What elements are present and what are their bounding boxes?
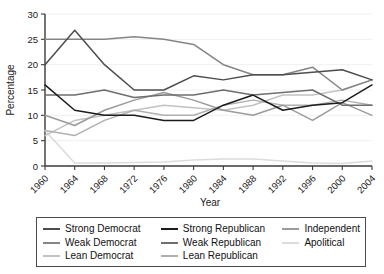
legend-item-independent[interactable]: Independent (282, 222, 360, 236)
legend-item-strong-republican[interactable]: Strong Republican (161, 222, 283, 236)
x-tick-label-1992: 1992 (266, 173, 289, 196)
x-tick-label-1988: 1988 (236, 173, 259, 196)
legend-label-strong-democrat: Strong Democrat (65, 223, 141, 235)
series-line-apolitical (45, 131, 372, 164)
x-axis: 1960196419681972197619801984198819921996… (28, 166, 378, 208)
legend-swatch-strong-republican (161, 228, 178, 230)
legend-swatch-independent (282, 228, 299, 230)
legend-swatch-strong-democrat (43, 228, 60, 230)
y-axis: 051015202530 Percentage (5, 9, 45, 172)
x-tick-label-1980: 1980 (176, 173, 199, 196)
y-axis-title: Percentage (5, 64, 16, 116)
legend-label-apolitical: Apolitical (304, 237, 344, 249)
x-tick-label-2000: 2000 (325, 173, 348, 196)
x-tick-label-1972: 1972 (117, 173, 140, 196)
legend-label-strong-republican: Strong Republican (183, 223, 265, 235)
legend-item-apolitical[interactable]: Apolitical (282, 236, 360, 250)
x-tick-label-1996: 1996 (295, 173, 318, 196)
y-tick-label-30: 30 (27, 9, 38, 20)
legend-item-strong-democrat[interactable]: Strong Democrat (43, 222, 161, 236)
y-tick-label-0: 0 (33, 161, 38, 172)
legend-label-weak-republican: Weak Republican (183, 237, 261, 249)
legend-swatch-lean-republican (161, 255, 178, 257)
x-tick-label-1984: 1984 (206, 173, 229, 196)
legend-swatch-weak-democrat (43, 242, 60, 244)
chart-legend: Strong Democrat Weak Democrat Lean Democ… (36, 217, 366, 267)
legend-item-weak-democrat[interactable]: Weak Democrat (43, 236, 161, 250)
legend-label-weak-democrat: Weak Democrat (65, 237, 137, 249)
legend-item-lean-democrat[interactable]: Lean Democrat (43, 249, 161, 263)
legend-swatch-lean-democrat (43, 255, 60, 257)
x-tick-label-1964: 1964 (57, 173, 80, 196)
legend-label-lean-republican: Lean Republican (183, 250, 258, 262)
legend-column-democrat: Strong Democrat Weak Democrat Lean Democ… (43, 222, 161, 263)
y-tick-label-5: 5 (33, 135, 38, 146)
x-tick-label-1960: 1960 (28, 173, 51, 196)
y-tick-label-25: 25 (27, 34, 38, 45)
y-tick-label-15: 15 (27, 85, 38, 96)
series-group (45, 30, 372, 163)
legend-item-lean-republican[interactable]: Lean Republican (161, 249, 283, 263)
series-line-lean-democrat (45, 80, 372, 136)
legend-swatch-apolitical (282, 242, 299, 244)
chart-root: 051015202530 Percentage 1960196419681972… (0, 0, 384, 274)
legend-label-lean-democrat: Lean Democrat (65, 250, 133, 262)
legend-label-independent: Independent (304, 223, 360, 235)
x-tick-label-1976: 1976 (147, 173, 170, 196)
legend-item-weak-republican[interactable]: Weak Republican (161, 236, 283, 250)
line-chart-svg: 051015202530 Percentage 1960196419681972… (0, 0, 384, 212)
x-axis-title: Year (200, 197, 221, 208)
legend-column-republican: Strong Republican Weak Republican Lean R… (161, 222, 283, 263)
series-line-weak-democrat (45, 37, 372, 90)
plot-area: 051015202530 Percentage 1960196419681972… (0, 0, 384, 212)
y-tick-label-10: 10 (27, 110, 38, 121)
x-tick-label-2004: 2004 (355, 173, 378, 196)
y-tick-label-20: 20 (27, 59, 38, 70)
legend-column-other: Independent Apolitical (282, 222, 360, 263)
legend-swatch-weak-republican (161, 242, 178, 244)
x-tick-label-1968: 1968 (87, 173, 110, 196)
